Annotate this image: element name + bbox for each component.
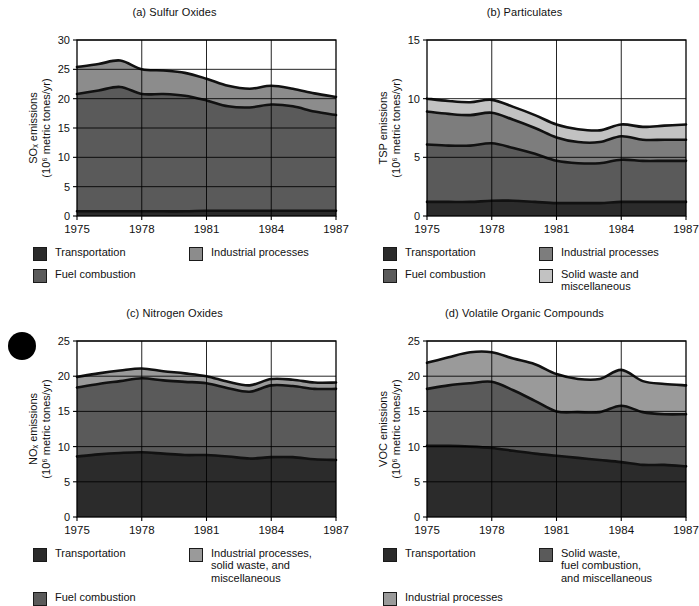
svg-text:1981: 1981 (544, 223, 570, 235)
panel-c-plot: 051015202519751978198119841987YearNOₓ em… (0, 301, 349, 541)
legend-item: Fuel combustion (33, 268, 183, 283)
legend-label: Fuel combustion (405, 268, 486, 280)
legend-item: Fuel combustion (383, 268, 533, 293)
legend-swatch-fuel-combustion (383, 269, 397, 283)
svg-text:1984: 1984 (608, 524, 634, 536)
svg-text:10: 10 (408, 93, 420, 105)
svg-text:1984: 1984 (608, 223, 634, 235)
panel-sulfur-oxides: (a) Sulfur Oxides 0510152025301975197819… (0, 0, 349, 301)
svg-text:1975: 1975 (414, 223, 440, 235)
legend-swatch-industrial-processes (383, 592, 397, 606)
panel-a-legend: Transportation Industrial processes Fuel… (33, 246, 349, 283)
svg-text:Year: Year (545, 239, 568, 240)
svg-text:10: 10 (58, 151, 70, 163)
legend-label: Solid waste and miscellaneous (561, 268, 639, 293)
svg-text:25: 25 (58, 63, 70, 75)
svg-text:20: 20 (58, 370, 70, 382)
panel-d-plot: 051015202519751978198119841987YearVOC em… (350, 301, 699, 541)
svg-text:1978: 1978 (129, 223, 155, 235)
legend-item: Solid waste and miscellaneous (539, 268, 699, 293)
svg-text:10: 10 (58, 441, 70, 453)
svg-text:VOC emissions: VOC emissions (377, 391, 389, 467)
svg-text:1987: 1987 (673, 223, 699, 235)
svg-text:15: 15 (58, 405, 70, 417)
legend-swatch-industrial-processes (189, 247, 203, 261)
svg-text:0: 0 (64, 511, 70, 523)
legend-swatch-transportation (33, 247, 47, 261)
legend-item: Industrial processes, solid waste, and m… (189, 547, 349, 584)
legend-label: Industrial processes (561, 246, 659, 258)
svg-text:20: 20 (408, 370, 420, 382)
svg-text:10: 10 (408, 441, 420, 453)
legend-item: Solid waste, fuel combustion, and miscel… (539, 547, 699, 584)
svg-text:30: 30 (58, 34, 70, 46)
svg-text:1984: 1984 (258, 524, 284, 536)
legend-label: Transportation (55, 547, 126, 559)
svg-text:1987: 1987 (323, 223, 349, 235)
svg-text:1981: 1981 (194, 223, 220, 235)
svg-text:SOₓ emissions: SOₓ emissions (27, 92, 39, 164)
svg-text:(10⁶ metric tones/yr): (10⁶ metric tones/yr) (390, 379, 402, 478)
panel-c-legend: Transportation Industrial processes, sol… (33, 547, 349, 606)
legend-label: Transportation (405, 246, 476, 258)
svg-text:20: 20 (58, 93, 70, 105)
svg-text:Year: Year (545, 540, 568, 541)
svg-text:1975: 1975 (64, 223, 90, 235)
svg-text:1975: 1975 (414, 524, 440, 536)
legend-item: Industrial processes (189, 246, 349, 261)
svg-text:(10⁶ metric tones/yr): (10⁶ metric tones/yr) (40, 78, 52, 177)
legend-item: Industrial processes (539, 246, 699, 261)
legend-label: Industrial processes (211, 246, 309, 258)
legend-swatch-transportation (383, 247, 397, 261)
svg-text:(10⁶ metric tones/yr): (10⁶ metric tones/yr) (390, 78, 402, 177)
panel-a-plot: 05101520253019751978198119841987YearSOₓ … (0, 0, 349, 240)
legend-item: Transportation (33, 547, 183, 584)
panel-nitrogen-oxides: (c) Nitrogen Oxides 05101520251975197819… (0, 301, 349, 602)
legend-item: Fuel combustion (33, 591, 183, 606)
legend-label: Industrial processes, solid waste, and m… (211, 547, 312, 584)
svg-text:5: 5 (414, 476, 420, 488)
legend-item: Transportation (33, 246, 183, 261)
panel-b-legend: Transportation Industrial processes Fuel… (383, 246, 699, 293)
legend-label: Industrial processes (405, 591, 503, 603)
legend-item: Industrial processes (383, 591, 533, 606)
svg-text:25: 25 (408, 335, 420, 347)
svg-text:5: 5 (64, 181, 70, 193)
legend-label: Fuel combustion (55, 268, 136, 280)
panel-b-plot: 05101519751978198119841987YearTSP emissi… (350, 0, 699, 240)
svg-text:0: 0 (64, 210, 70, 222)
panel-volatile-organic-compounds: (d) Volatile Organic Compounds 051015202… (350, 301, 699, 602)
svg-text:15: 15 (408, 405, 420, 417)
svg-text:1975: 1975 (64, 524, 90, 536)
legend-swatch-fuel-combustion (33, 269, 47, 283)
svg-text:15: 15 (58, 122, 70, 134)
svg-text:TSP emissions: TSP emissions (377, 91, 389, 165)
legend-item: Transportation (383, 547, 533, 584)
svg-text:1978: 1978 (479, 524, 505, 536)
svg-text:5: 5 (64, 476, 70, 488)
legend-label: Solid waste, fuel combustion, and miscel… (561, 547, 652, 584)
legend-swatch-solid-waste (539, 269, 553, 283)
svg-text:0: 0 (414, 511, 420, 523)
svg-text:15: 15 (408, 34, 420, 46)
svg-text:Year: Year (195, 239, 218, 240)
svg-text:1987: 1987 (323, 524, 349, 536)
svg-text:1981: 1981 (194, 524, 220, 536)
legend-swatch-industrial-solid-misc (189, 548, 203, 562)
svg-text:1981: 1981 (544, 524, 570, 536)
legend-swatch-transportation (383, 548, 397, 562)
svg-text:Year: Year (195, 540, 218, 541)
legend-label: Transportation (55, 246, 126, 258)
legend-item: Transportation (383, 246, 533, 261)
panel-d-legend: Transportation Solid waste, fuel combust… (383, 547, 699, 606)
svg-text:1978: 1978 (129, 524, 155, 536)
legend-label: Transportation (405, 547, 476, 559)
svg-text:NOₓ emissions: NOₓ emissions (27, 392, 39, 465)
svg-text:1984: 1984 (258, 223, 284, 235)
svg-text:1987: 1987 (673, 524, 699, 536)
legend-swatch-transportation (33, 548, 47, 562)
svg-text:5: 5 (414, 151, 420, 163)
legend-swatch-fuel-combustion (33, 592, 47, 606)
svg-text:25: 25 (58, 335, 70, 347)
